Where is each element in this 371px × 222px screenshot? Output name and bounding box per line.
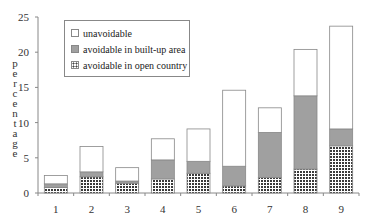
bar-segment-white — [116, 168, 139, 181]
legend-item-built-up: avoidable in built-up area — [71, 43, 185, 55]
legend-item-open-country: avoidable in open country — [71, 59, 187, 71]
bar-segment-grey — [151, 160, 174, 179]
bar-segment-white — [330, 26, 353, 129]
bar-segment-white — [187, 129, 210, 161]
x-tick-label: 7 — [267, 203, 273, 215]
legend-item-unavoidable: unavoidable — [71, 27, 132, 39]
x-tick-label: 3 — [124, 203, 130, 215]
bar-segment-white — [151, 139, 174, 160]
bar-segment-grey — [80, 172, 103, 177]
x-tick-label: 5 — [196, 203, 202, 215]
legend: unavoidable avoidable in built-up area a… — [64, 20, 190, 77]
bar-segment-white — [80, 147, 103, 172]
y-tick-label: 20 — [18, 46, 30, 58]
bar-segment-white — [44, 175, 67, 183]
bar-segment-white — [258, 108, 281, 133]
bar-segment-grey — [258, 132, 281, 177]
bar-segment-grey — [223, 166, 246, 186]
bar-segment-crosshatch — [258, 178, 281, 193]
y-axis-label-letter: e — [8, 148, 22, 158]
bar-segment-crosshatch — [44, 187, 67, 193]
x-tick-label: 2 — [89, 203, 95, 215]
x-tick-label: 1 — [53, 203, 59, 215]
bar-segment-crosshatch — [80, 177, 103, 193]
x-tick-label: 8 — [303, 203, 309, 215]
bar-segment-white — [223, 90, 246, 166]
x-tick-label: 6 — [231, 203, 237, 215]
y-tick-label: 0 — [24, 187, 30, 199]
y-tick-label: 5 — [24, 152, 30, 164]
bar-segment-crosshatch — [151, 179, 174, 193]
bar-segment-grey — [294, 96, 317, 169]
y-axis-label: percentage — [8, 58, 22, 158]
grey-swatch-icon — [71, 45, 79, 53]
bar-segment-grey — [330, 129, 353, 146]
bar-segment-crosshatch — [223, 186, 246, 193]
bar-segment-crosshatch — [294, 169, 317, 193]
white-swatch-icon — [71, 29, 79, 37]
hatch-swatch-icon — [71, 61, 79, 69]
x-tick-label: 9 — [338, 203, 344, 215]
bar-segment-white — [294, 49, 317, 95]
x-tick-label: 4 — [160, 203, 166, 215]
bar-segment-crosshatch — [187, 173, 210, 193]
y-tick-label: 25 — [18, 11, 30, 23]
bar-segment-grey — [44, 184, 67, 188]
bar-segment-crosshatch — [116, 183, 139, 193]
bar-segment-crosshatch — [330, 146, 353, 193]
bar-segment-grey — [187, 161, 210, 173]
